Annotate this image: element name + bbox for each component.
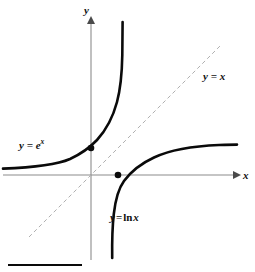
graph-canvas bbox=[0, 0, 255, 272]
exponential-curve-label: y = ex bbox=[19, 140, 44, 151]
x-axis-label: x bbox=[243, 170, 249, 181]
point-exp-y-intercept bbox=[88, 145, 95, 152]
y-axis bbox=[87, 16, 95, 260]
logarithm-curve bbox=[112, 145, 237, 258]
logarithm-label-function: ln bbox=[123, 211, 133, 223]
bottom-rule bbox=[8, 264, 82, 266]
point-log-x-intercept bbox=[115, 172, 122, 179]
exponential-label-base: y = e bbox=[19, 139, 41, 151]
x-axis-arrowhead bbox=[233, 171, 241, 179]
exp-log-graph-figure: y x y = ex y = x y=lnx bbox=[0, 0, 255, 272]
logarithm-label-argument: x bbox=[133, 211, 139, 223]
y-axis-arrowhead bbox=[87, 16, 95, 24]
identity-line-dashed bbox=[29, 45, 221, 237]
exponential-label-exponent: x bbox=[41, 137, 45, 146]
identity-line-label: y = x bbox=[203, 71, 225, 82]
logarithm-label-equals: = bbox=[115, 211, 123, 223]
x-axis bbox=[3, 171, 241, 179]
y-axis-label: y bbox=[84, 5, 89, 16]
logarithm-curve-label: y=lnx bbox=[110, 212, 139, 223]
